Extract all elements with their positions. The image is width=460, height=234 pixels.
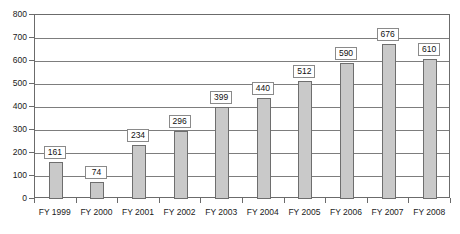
data-label: 74 <box>85 166 107 179</box>
y-tick-label: 0 <box>0 194 27 203</box>
x-tick-mark <box>117 198 118 203</box>
x-tick-label: FY 2001 <box>117 208 159 217</box>
x-tick-label: FY 2003 <box>200 208 242 217</box>
x-tick-mark <box>200 198 201 203</box>
y-tick-label: 200 <box>0 148 27 157</box>
bar[interactable] <box>174 131 188 199</box>
x-tick-label: FY 1999 <box>34 208 76 217</box>
x-tick-label: FY 2000 <box>76 208 118 217</box>
bar[interactable] <box>382 44 396 199</box>
data-label: 161 <box>44 146 66 159</box>
y-tick-label: 800 <box>0 10 27 19</box>
y-tick-label: 700 <box>0 33 27 42</box>
data-label: 512 <box>293 65 315 78</box>
x-tick-mark <box>408 198 409 203</box>
y-tick-label: 400 <box>0 102 27 111</box>
bar[interactable] <box>257 98 271 199</box>
data-label: 234 <box>127 129 149 142</box>
bar[interactable] <box>132 145 146 199</box>
x-tick-label: FY 2006 <box>325 208 367 217</box>
y-tick-label: 500 <box>0 79 27 88</box>
y-tick-label: 100 <box>0 171 27 180</box>
bar[interactable] <box>423 59 437 199</box>
data-label: 590 <box>335 47 357 60</box>
data-label: 399 <box>210 91 232 104</box>
bar[interactable] <box>215 107 229 199</box>
x-tick-mark <box>284 198 285 203</box>
x-tick-mark <box>242 198 243 203</box>
x-tick-label: FY 2007 <box>367 208 409 217</box>
data-label: 676 <box>377 28 399 41</box>
bar-chart: 0100200300400500600700800 FY 1999FY 2000… <box>0 0 460 234</box>
data-label: 610 <box>418 43 440 56</box>
x-tick-label: FY 2004 <box>242 208 284 217</box>
x-tick-label: FY 2002 <box>159 208 201 217</box>
y-tick-label: 600 <box>0 56 27 65</box>
x-tick-mark <box>34 198 35 203</box>
bar[interactable] <box>90 182 104 199</box>
data-label: 440 <box>252 82 274 95</box>
data-label: 296 <box>169 115 191 128</box>
bar[interactable] <box>340 63 354 199</box>
x-tick-mark <box>450 198 451 203</box>
x-tick-mark <box>76 198 77 203</box>
y-tick-label: 300 <box>0 125 27 134</box>
bar[interactable] <box>49 162 63 199</box>
x-tick-label: FY 2008 <box>408 208 450 217</box>
x-tick-mark <box>367 198 368 203</box>
x-tick-mark <box>159 198 160 203</box>
bar[interactable] <box>298 81 312 199</box>
x-tick-mark <box>325 198 326 203</box>
x-tick-label: FY 2005 <box>284 208 326 217</box>
